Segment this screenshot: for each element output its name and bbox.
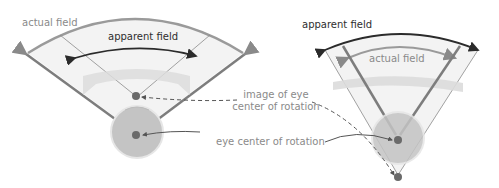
left-image-eye-center: [132, 92, 140, 100]
right-apparent-field-label: apparent field: [302, 19, 372, 30]
eye-center-label: eye center of rotation: [216, 136, 325, 147]
image-eye-center-label-line2: center of rotation: [226, 101, 326, 112]
right-actual-field-label: actual field: [369, 53, 425, 64]
left-apparent-field-label: apparent field: [108, 31, 178, 42]
image-eye-center-label-line1: image of eye: [236, 89, 316, 100]
left-eye-center: [132, 131, 140, 139]
left-actual-field-label: actual field: [22, 17, 78, 28]
right-image-eye-center: [394, 173, 402, 181]
right-eye-center: [394, 136, 402, 144]
